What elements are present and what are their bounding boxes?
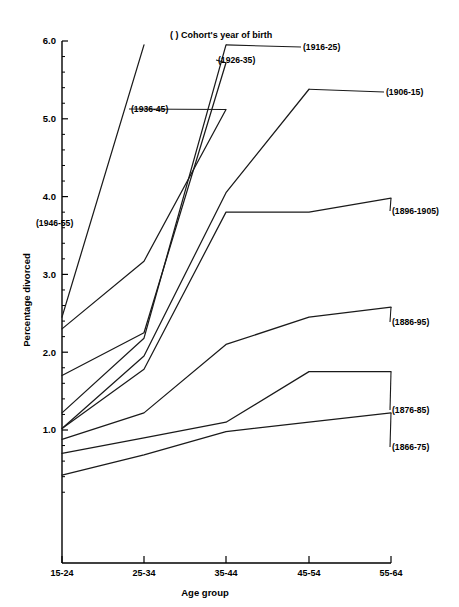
y-tick-label: 6.0 [43, 35, 56, 46]
y-tick-label: 1.0 [43, 424, 56, 435]
series-label-leader [390, 372, 391, 410]
series-label: (1876-85) [392, 405, 429, 415]
series-label: (1886-95) [392, 317, 429, 327]
x-tick-label: 15-24 [50, 568, 73, 578]
y-tick-label: 4.0 [43, 191, 56, 202]
series-line [62, 372, 391, 454]
x-tick-label: 45-54 [297, 568, 320, 578]
series-line [62, 307, 391, 439]
y-axis-title: Percentage divorced [21, 253, 32, 347]
y-tick-label: 2.0 [43, 347, 56, 358]
chart-note: ( ) Cohort's year of birth [170, 30, 272, 40]
x-tick-label: 35-44 [214, 568, 237, 578]
x-tick-label: 25-34 [132, 568, 155, 578]
series-label-leader [390, 307, 391, 322]
series-label-leader [309, 89, 384, 92]
series-label-leader [226, 45, 301, 47]
cohort-divorce-line-chart: ( ) Cohort's year of birth 6.05.04.03.02… [0, 0, 459, 607]
y-tick-label: 5.0 [43, 113, 56, 124]
series-label-leader [390, 198, 391, 211]
series-lines [62, 45, 391, 475]
y-tick-marks [62, 41, 68, 430]
series-line [62, 45, 144, 317]
series-label: (1946-55) [36, 218, 73, 228]
series-label-leaders [129, 45, 391, 447]
series-labels: (1946-55)(1936-45)(1926-35)(1916-25)(190… [36, 42, 439, 452]
chart-container: ( ) Cohort's year of birth 6.05.04.03.02… [0, 0, 459, 607]
series-label: (1896-1905) [392, 206, 439, 216]
x-tick-marks [62, 556, 391, 563]
series-line [62, 45, 226, 413]
x-axis-title: Age group [181, 587, 229, 598]
series-label-leader [390, 413, 391, 447]
series-label: (1906-15) [386, 87, 423, 97]
x-tick-label: 55-64 [379, 568, 402, 578]
series-label: (1926-35) [218, 55, 255, 65]
x-tick-labels: 15-2425-3435-4445-5455-64 [50, 568, 402, 578]
y-tick-label: 3.0 [43, 269, 56, 280]
series-label: (1916-25) [303, 42, 340, 52]
series-label: (1866-75) [392, 442, 429, 452]
series-label: (1936-45) [131, 104, 168, 114]
y-tick-labels: 6.05.04.03.02.01.0 [43, 35, 56, 435]
